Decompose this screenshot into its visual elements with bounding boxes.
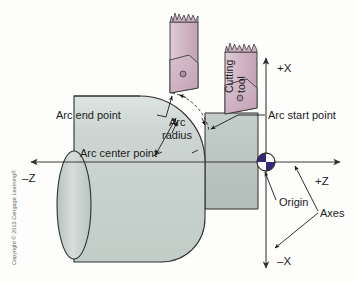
cutting-tool-label-line1: Cutting <box>223 60 235 93</box>
lathe-arc-diagram: Cutting tool +X –X +Z –Z <box>0 0 356 282</box>
cutting-tool-left <box>170 13 198 93</box>
arc-radius-label-line2: radius <box>162 129 192 141</box>
arc-start-point-label: Arc start point <box>268 109 336 121</box>
workpiece-right-step <box>205 113 258 209</box>
copyright-notice: Copyright © 2015 Cengage Learning® <box>11 170 17 265</box>
cutting-tool-label-line2: tool <box>235 76 247 93</box>
axes-leader-lower <box>275 213 318 248</box>
minus-x-label: –X <box>277 255 291 267</box>
workpiece-end-face-ellipse <box>57 151 91 259</box>
cutting-tool-right: Cutting tool <box>223 43 257 114</box>
origin-marker <box>257 153 275 171</box>
tool-left-break-line <box>170 13 198 22</box>
tool-right-insert-screw <box>237 95 243 101</box>
axes-label: Axes <box>320 207 345 219</box>
figure-canvas: Cutting tool +X –X +Z –Z <box>0 0 356 282</box>
arc-center-point-label: Arc center point <box>80 147 157 159</box>
plus-z-label: +Z <box>315 175 329 187</box>
tool-left-insert-screw <box>180 71 186 77</box>
origin-label: Origin <box>279 196 308 208</box>
arc-end-point-label: Arc end point <box>56 109 121 121</box>
origin-leader <box>265 172 276 200</box>
plus-x-label: +X <box>277 62 292 74</box>
tool-right-break-line <box>225 43 257 52</box>
minus-z-label: –Z <box>22 172 35 184</box>
arc-radius-label-line1: Arc <box>169 116 186 128</box>
